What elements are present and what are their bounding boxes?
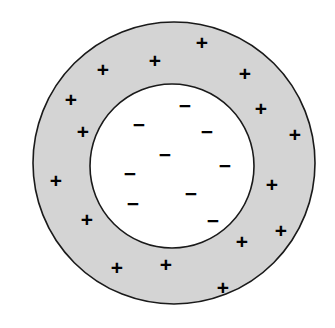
positive-charge-symbol: + bbox=[97, 58, 109, 81]
negative-charge-symbol: − bbox=[201, 120, 213, 143]
negative-charge-symbol: − bbox=[124, 162, 136, 185]
positive-charge-symbol: + bbox=[217, 276, 229, 299]
positive-charge-symbol: + bbox=[196, 31, 208, 54]
negative-charge-symbol: − bbox=[159, 143, 171, 166]
negative-charge-symbol: − bbox=[127, 192, 139, 215]
positive-charge-symbol: + bbox=[50, 169, 62, 192]
negative-charge-symbol: − bbox=[179, 94, 191, 117]
positive-charge-symbol: + bbox=[77, 120, 89, 143]
positive-charge-symbol: + bbox=[65, 88, 77, 111]
positive-charge-symbol: + bbox=[255, 97, 267, 120]
positive-charge-symbol: + bbox=[275, 219, 287, 242]
positive-charge-symbol: + bbox=[266, 173, 278, 196]
negative-charge-symbol: − bbox=[219, 154, 231, 177]
positive-charge-symbol: + bbox=[111, 256, 123, 279]
figure-container: ++++++++++++++++ −−−−−−−−− bbox=[0, 0, 335, 328]
positive-charge-symbol: + bbox=[160, 253, 172, 276]
positive-charge-symbol: + bbox=[149, 49, 161, 72]
negative-charge-symbol: − bbox=[207, 209, 219, 232]
positive-charge-symbol: + bbox=[81, 208, 93, 231]
negative-charge-symbol: − bbox=[133, 113, 145, 136]
negative-charge-symbol: − bbox=[185, 182, 197, 205]
positive-charge-symbol: + bbox=[289, 123, 301, 146]
charged-shell-diagram: ++++++++++++++++ −−−−−−−−− bbox=[0, 0, 335, 328]
positive-charge-symbol: + bbox=[236, 230, 248, 253]
positive-charge-symbol: + bbox=[239, 62, 251, 85]
